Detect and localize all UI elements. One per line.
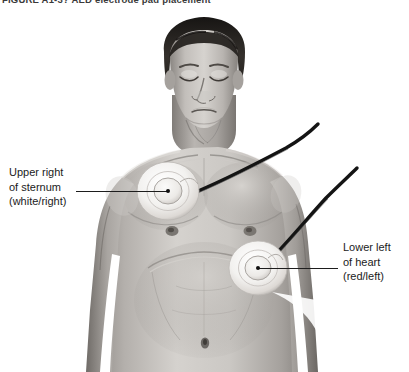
ear-right [165, 70, 176, 90]
label-lower-line1: Lower left [343, 240, 391, 255]
label-upper-right-sternum: Upper right of sternum (white/right) [9, 165, 66, 209]
leader-dot-upper [166, 189, 170, 193]
label-lower-line3: (red/left) [343, 269, 391, 284]
label-lower-line2: of heart [343, 255, 391, 270]
label-upper-line2: of sternum [9, 180, 66, 195]
ear-left [233, 70, 244, 90]
label-upper-line3: (white/right) [9, 194, 66, 209]
label-lower-left-heart: Lower left of heart (red/left) [343, 240, 391, 284]
label-upper-line1: Upper right [9, 165, 66, 180]
leader-dot-lower [256, 266, 260, 270]
figure-container: FIGURE A1-3? AED electrode pad placement [0, 0, 409, 372]
leader-line-lower [258, 268, 338, 269]
leader-line-upper [76, 191, 168, 192]
